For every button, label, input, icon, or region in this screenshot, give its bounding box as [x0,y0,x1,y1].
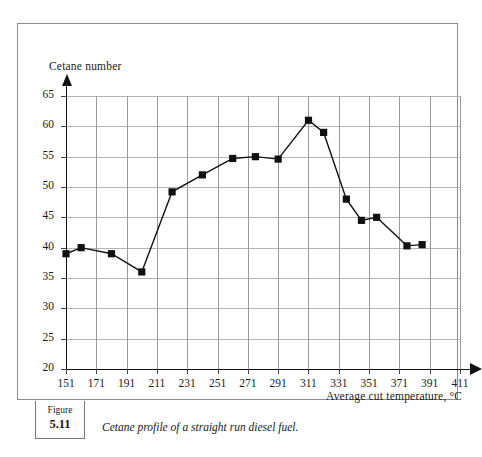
x-tick-mark-251 [218,369,219,374]
figure-frame: Cetane number Average cut temperature, °… [17,23,458,400]
y-tick-55: 55 [14,149,54,161]
x-tick-mark-411 [460,369,461,374]
data-point-6 [229,155,236,162]
figure-number-box: Figure 5.11 [35,401,85,439]
y-tick-65: 65 [14,88,54,100]
data-series-cetane [66,96,460,369]
y-tick-45: 45 [14,209,54,221]
data-point-2 [108,250,115,257]
data-point-4 [168,188,175,195]
x-tick-mark-311 [308,369,309,374]
x-tick-411: 411 [440,377,480,389]
data-point-3 [138,268,145,275]
data-point-10 [320,129,327,136]
x-tick-mark-371 [399,369,400,374]
figure-caption-block: Figure 5.11 Cetane profile of a straight… [35,401,298,439]
y-tick-30: 30 [14,300,54,312]
x-tick-mark-391 [430,369,431,374]
data-point-1 [78,244,85,251]
y-tick-20: 20 [14,361,54,373]
data-point-8 [275,155,282,162]
x-axis-title: Average cut temperature, °C [326,390,462,402]
figure-caption-text: Cetane profile of a straight run diesel … [102,421,298,433]
y-tick-25: 25 [14,331,54,343]
x-tick-mark-171 [96,369,97,374]
x-tick-mark-291 [278,369,279,374]
x-axis-arrow-icon [470,363,482,375]
y-axis-arrow-icon [62,74,72,86]
data-point-15 [419,241,426,248]
x-tick-mark-211 [157,369,158,374]
figure-word: Figure [36,404,84,417]
data-point-11 [343,196,350,203]
y-tick-50: 50 [14,179,54,191]
data-point-13 [373,214,380,221]
data-point-14 [403,242,410,249]
x-tick-mark-231 [187,369,188,374]
data-point-12 [358,217,365,224]
series-line [66,120,422,272]
data-point-7 [252,153,259,160]
gridline-v-411 [460,96,461,369]
x-tick-mark-271 [248,369,249,374]
data-point-9 [305,117,312,124]
data-point-5 [199,171,206,178]
y-tick-35: 35 [14,270,54,282]
x-tick-mark-351 [369,369,370,374]
x-tick-mark-151 [66,369,67,374]
series-markers [62,117,425,276]
y-axis-title: Cetane number [49,60,122,72]
x-tick-mark-331 [339,369,340,374]
data-point-0 [62,250,69,257]
y-tick-60: 60 [14,118,54,130]
plot-area: 20253035404550556065 1511711912112312512… [66,96,460,369]
figure-number: 5.11 [36,417,84,432]
y-tick-40: 40 [14,240,54,252]
x-tick-mark-191 [127,369,128,374]
